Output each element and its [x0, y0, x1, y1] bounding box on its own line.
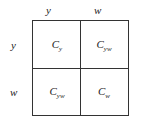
row-header-w: w: [10, 87, 17, 98]
cell-w-y: Cyw: [37, 86, 77, 102]
cell-y-y: Cy: [37, 39, 77, 55]
column-header-y: y: [46, 5, 51, 16]
grid-divider-horizontal: [33, 68, 128, 69]
cell-y-w: Cyw: [84, 39, 124, 55]
cell-w-w: Cw: [84, 86, 124, 102]
column-header-w: w: [94, 5, 101, 16]
covariance-grid: Cy Cyw Cyw Cw: [32, 20, 129, 116]
row-header-y: y: [11, 40, 16, 51]
